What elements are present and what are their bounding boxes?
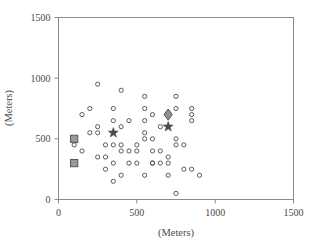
x-axis-label: (Meters) bbox=[158, 227, 195, 239]
y-axis-tick-labels: 050010001500 bbox=[31, 12, 51, 205]
y-axis-ticks bbox=[55, 18, 59, 200]
data-point-square bbox=[71, 160, 78, 167]
y-tick-label-1500: 1500 bbox=[31, 12, 51, 23]
x-tick-label-1500: 1500 bbox=[284, 207, 304, 218]
x-axis-ticks bbox=[59, 200, 294, 204]
plot-area-border bbox=[59, 18, 294, 200]
y-tick-label-1000: 1000 bbox=[31, 73, 51, 84]
x-tick-label-1000: 1000 bbox=[205, 207, 225, 218]
y-tick-label-0: 0 bbox=[46, 194, 51, 205]
data-point-square bbox=[71, 135, 78, 142]
y-tick-label-500: 500 bbox=[36, 133, 51, 144]
x-tick-label-500: 500 bbox=[129, 207, 144, 218]
x-tick-label-0: 0 bbox=[56, 207, 61, 218]
y-axis-label: (Meters) bbox=[3, 89, 15, 126]
plot-frame bbox=[59, 18, 294, 200]
x-axis-tick-labels: 050010001500 bbox=[56, 207, 304, 218]
chart-canvas: 050010001500 050010001500 (Meters) (Mete… bbox=[0, 0, 320, 246]
scatter-plot-figure: 050010001500 050010001500 (Meters) (Mete… bbox=[0, 0, 320, 246]
